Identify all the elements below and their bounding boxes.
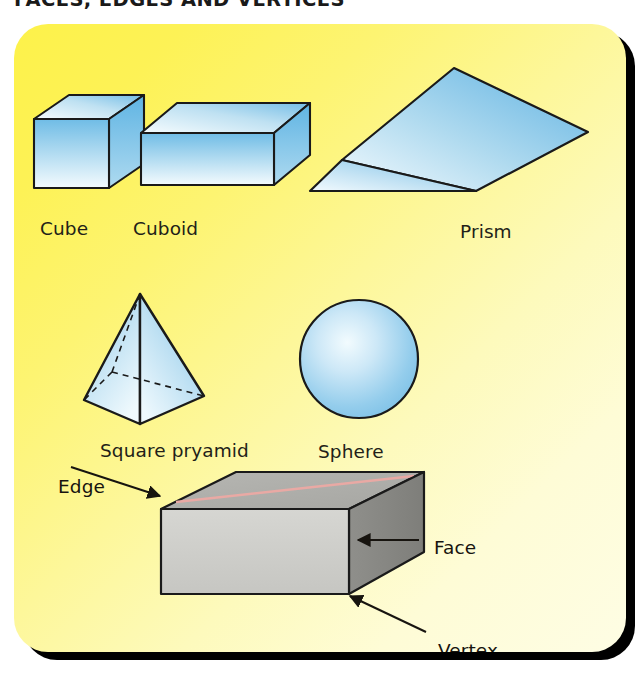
- shape-cube: [34, 95, 144, 188]
- shape-label-cube: Cube: [40, 218, 88, 239]
- vertex-callout-arrow: [350, 596, 426, 632]
- shape-triangular-prism: [310, 68, 588, 191]
- callout-label-face: Face: [434, 537, 476, 558]
- callout-label-vertex: Vertex: [438, 640, 498, 652]
- shape-label-cuboid: Cuboid: [133, 218, 198, 239]
- annotated-cuboid: [161, 472, 424, 594]
- pyramid-right-face: [140, 294, 204, 424]
- cuboid-front-face: [141, 133, 274, 185]
- pyramid-left-face: [84, 294, 140, 424]
- shape-label-square-pyramid: Square pryamid: [100, 440, 249, 461]
- grey-cuboid-front-face: [161, 509, 349, 594]
- figure-title: FACES, EDGES AND VERTICES: [14, 0, 634, 13]
- shape-label-sphere: Sphere: [318, 441, 384, 462]
- shape-sphere: [300, 300, 418, 418]
- shape-square-pyramid: [84, 294, 204, 424]
- callout-label-edge: Edge: [58, 476, 105, 497]
- cube-front-face: [34, 119, 109, 188]
- shape-label-prism: Prism: [460, 221, 512, 242]
- diagram-panel: Cube Cuboid Prism Square pryamid Sphere …: [14, 24, 626, 652]
- shapes-canvas: [14, 24, 626, 652]
- sphere-body: [300, 300, 418, 418]
- shape-cuboid: [141, 103, 310, 185]
